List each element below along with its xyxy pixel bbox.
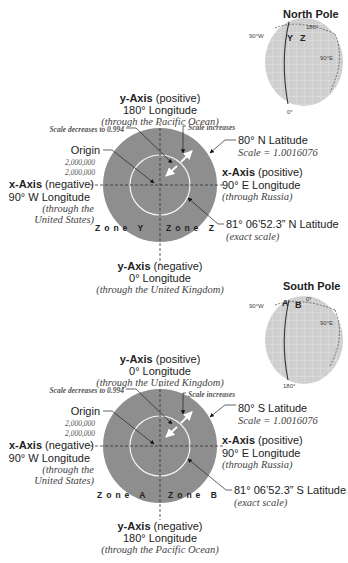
south-globe-zone-b: B: [295, 299, 302, 311]
south-y-neg-bold: y-Axis: [117, 520, 150, 532]
north-x-pos-bold: x-Axis: [222, 166, 255, 178]
south-x-pos-bold: x-Axis: [222, 434, 255, 446]
south-exact-scale-label: 81° 06’52.3” S Latitude: [234, 484, 346, 496]
south-scale-increases-label: Scale increases: [188, 389, 235, 401]
south-x-neg-title: x-Axis (negative): [0, 439, 94, 451]
south-zone-b: Zone B: [168, 489, 221, 501]
north-exact-scale-note: (exact scale): [226, 231, 279, 243]
north-x-neg-note2: United States): [0, 214, 94, 226]
south-y-pos-longitude: 0° Longitude: [90, 365, 230, 377]
south-lat80-label: 80° S Latitude: [238, 402, 307, 414]
south-x-neg-bold: x-Axis: [9, 439, 42, 451]
north-x-pos-note: (through Russia): [222, 191, 293, 203]
south-x-pos-rest: (positive): [255, 434, 303, 446]
south-x-neg-note2: United States): [0, 475, 94, 487]
north-globe-zone-z: Z: [300, 32, 306, 44]
south-exact-scale-note: (exact scale): [234, 497, 287, 509]
south-y-pos-rest: (positive): [153, 353, 201, 365]
south-origin-label: Origin: [40, 405, 100, 417]
north-zone-y: Zone Y: [95, 222, 147, 234]
north-globe-zone-y: Y: [287, 32, 293, 44]
south-x-neg-longitude: 90° W Longitude: [0, 452, 90, 464]
north-y-axis-negative-label: y-Axis (negative) 0° Longitude (through …: [90, 260, 230, 296]
north-globe-label-180: 180°: [306, 21, 318, 33]
north-globe-label-90e: 90°E: [320, 52, 333, 64]
north-lat80-scale: Scale = 1.0016076: [238, 147, 318, 159]
south-zone-a: Zone A: [97, 489, 150, 501]
south-y-neg-rest: (negative): [151, 520, 203, 532]
south-globe-label-180: 180°: [283, 380, 295, 392]
north-projection-disk: [90, 123, 236, 265]
south-globe-label-90w: 90°W: [249, 300, 264, 312]
south-globe-label-90e: 90°E: [320, 317, 333, 329]
south-lat80-scale: Scale = 1.0016076: [238, 415, 318, 427]
north-x-neg-title: x-Axis (negative): [0, 178, 94, 190]
north-origin-label: Origin: [40, 144, 100, 156]
north-y-neg-longitude: 0° Longitude: [90, 272, 230, 284]
south-pole-globe: [265, 296, 343, 384]
south-x-pos-note: (through Russia): [222, 459, 293, 471]
south-y-axis-positive-label: y-Axis (positive) 0° Longitude (through …: [90, 353, 230, 389]
south-y-neg-note: (through the Pacific Ocean): [90, 544, 230, 556]
south-x-pos-title: x-Axis (positive): [222, 434, 303, 446]
south-y-pos-bold: y-Axis: [120, 353, 153, 365]
south-y-neg-longitude: 180° Longitude: [90, 532, 230, 544]
north-y-pos-longitude: 180° Longitude: [100, 104, 220, 116]
south-globe-zone-a: A: [282, 297, 289, 309]
north-y-neg-bold: y-Axis: [117, 260, 150, 272]
north-x-pos-title: x-Axis (positive): [222, 166, 303, 178]
north-x-pos-rest: (positive): [255, 166, 303, 178]
south-globe-label-0: 0°: [306, 293, 312, 305]
north-y-neg-rest: (negative): [151, 260, 203, 272]
north-y-neg-note: (through the United Kingdom): [90, 284, 230, 296]
south-x-pos-longitude: 90° E Longitude: [222, 447, 300, 459]
north-scale-increases-label: Scale increases: [188, 122, 235, 134]
north-y-pos-title: y-Axis: [120, 92, 153, 104]
south-globe-title: South Pole: [283, 280, 340, 292]
north-globe-title: North Pole: [283, 8, 339, 20]
north-x-neg-rest: (negative): [42, 178, 94, 190]
north-globe-label-90w: 90°W: [249, 30, 264, 42]
south-scale-decreases-label: Scale decreases to 0.994: [28, 385, 124, 397]
north-lat80-label: 80° N Latitude: [238, 134, 308, 146]
north-x-pos-longitude: 90° E Longitude: [222, 179, 300, 191]
north-x-neg-longitude: 90° W Longitude: [0, 191, 90, 203]
north-globe-label-0: 0°: [287, 106, 293, 118]
north-scale-decreases-label: Scale decreases to 0.994: [28, 124, 124, 136]
north-zone-z: Zone Z: [166, 222, 218, 234]
south-x-neg-rest: (negative): [42, 439, 94, 451]
north-x-neg-bold: x-Axis: [9, 178, 42, 190]
south-y-axis-negative-label: y-Axis (negative) 180° Longitude (throug…: [90, 520, 230, 556]
north-exact-scale-label: 81° 06’52.3” N Latitude: [226, 218, 339, 230]
north-y-pos-rest: (positive): [153, 92, 201, 104]
